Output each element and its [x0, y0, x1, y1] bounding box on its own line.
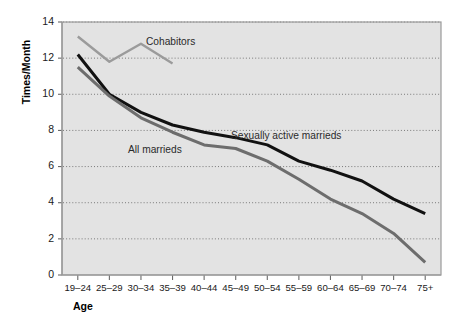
plot-area-background	[62, 22, 441, 275]
x-tick-label-8: 60–64	[317, 282, 344, 293]
line-chart: 02468101214 19–2425–2930–3435–3940–4445–…	[0, 0, 463, 323]
y-tick-label-6: 6	[48, 159, 54, 171]
y-tick-label-0: 0	[48, 268, 54, 280]
chart-container: 02468101214 19–2425–2930–3435–3940–4445–…	[0, 0, 463, 323]
series-label-sexually-active-marrieds: Sexually active marrieds	[231, 130, 341, 141]
y-tick-label-2: 2	[48, 232, 54, 244]
x-axis-title: Age	[73, 300, 93, 312]
x-tick-label-7: 55–59	[286, 282, 313, 293]
x-tick-label-6: 50–54	[254, 282, 281, 293]
x-tick-label-3: 35–39	[159, 282, 186, 293]
x-tick-label-1: 25–29	[96, 282, 123, 293]
y-tick-label-8: 8	[48, 123, 54, 135]
x-tick-label-11: 75+	[417, 282, 434, 293]
series-label-all-marrieds: All marrieds	[128, 144, 182, 155]
y-tick-label-10: 10	[42, 87, 54, 99]
series-label-cohabitors: Cohabitors	[146, 36, 195, 47]
x-tick-label-0: 19–24	[64, 282, 91, 293]
x-tick-label-9: 65–69	[349, 282, 376, 293]
x-tick-label-4: 40–44	[191, 282, 218, 293]
y-axis-title: Times/Month	[20, 40, 32, 105]
y-tick-label-4: 4	[48, 195, 54, 207]
y-tick-label-12: 12	[42, 51, 54, 63]
y-tick-label-14: 14	[42, 15, 54, 27]
x-tick-label-5: 45–49	[222, 282, 249, 293]
x-tick-label-2: 30–34	[128, 282, 155, 293]
x-tick-label-10: 70–74	[380, 282, 407, 293]
